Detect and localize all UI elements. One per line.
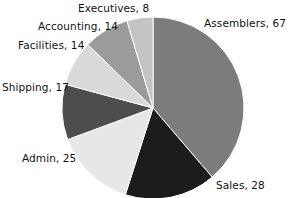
slice-label-facilities: Facilities, 14	[18, 39, 84, 51]
slice-label-admin: Admin, 25	[22, 152, 76, 164]
slice-label-sales: Sales, 28	[216, 179, 265, 191]
slice-label-executives: Executives, 8	[78, 2, 149, 14]
slice-label-shipping: Shipping, 17	[2, 81, 69, 93]
slice-label-accounting: Accounting, 14	[38, 20, 118, 32]
slice-label-assemblers: Assemblers, 67	[204, 17, 286, 29]
pie-chart-figure: Assemblers, 67 Sales, 28 Admin, 25 Shipp…	[0, 0, 307, 198]
pie-slice-group	[62, 17, 244, 198]
